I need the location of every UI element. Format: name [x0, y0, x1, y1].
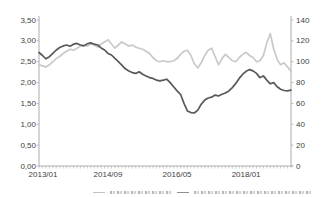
left-axis-tick-label: 3,50	[0, 16, 36, 25]
left-axis-tick-label: 2,00	[0, 78, 36, 87]
legend-clipped-text	[194, 191, 312, 194]
right-axis-tick-label: 0	[296, 162, 322, 171]
legend-marker-dark	[177, 192, 189, 193]
line-chart: 0,000,501,001,502,002,503,003,50 0204060…	[0, 0, 324, 197]
x-axis-tick-label: 2014/09	[86, 170, 130, 179]
plot-area	[0, 0, 324, 197]
right-axis-tick-label: 120	[296, 36, 322, 45]
left-axis-tick-label: 1,00	[0, 120, 36, 129]
right-axis-tick-label: 40	[296, 120, 322, 129]
left-axis-tick-label: 3,00	[0, 36, 36, 45]
right-axis-tick-label: 100	[296, 57, 322, 66]
light-series-right-axis	[39, 34, 291, 72]
dark-series-left-axis	[39, 43, 291, 113]
left-axis-tick-label: 0,50	[0, 141, 36, 150]
legend-marker-light	[93, 192, 105, 193]
legend-clipped	[93, 190, 318, 197]
right-axis-tick-label: 140	[296, 16, 322, 25]
x-axis-tick-label: 2016/05	[155, 170, 199, 179]
left-axis-tick-label: 2,50	[0, 57, 36, 66]
x-axis-tick-label: 2013/01	[21, 170, 65, 179]
x-axis-tick-label: 2018/01	[224, 170, 268, 179]
right-axis-tick-label: 60	[296, 99, 322, 108]
right-axis-tick-label: 80	[296, 78, 322, 87]
left-axis-tick-label: 1,50	[0, 99, 36, 108]
legend-clipped-text	[110, 191, 172, 194]
right-axis-tick-label: 20	[296, 141, 322, 150]
